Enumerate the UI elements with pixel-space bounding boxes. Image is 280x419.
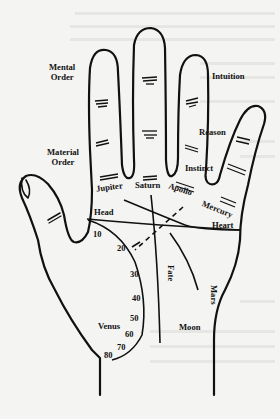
thumb-nail (22, 178, 30, 198)
middle-finger-outline (133, 28, 178, 176)
label-material-order: Material Order (47, 148, 79, 167)
hand-outline-diagram (0, 0, 280, 419)
apollo-line (170, 233, 198, 290)
age-20-tick (132, 242, 140, 247)
age-80: 80 (104, 351, 113, 361)
label-intuition: Intuition (212, 72, 244, 82)
index-finger-outline (89, 50, 134, 178)
age-70: 70 (117, 343, 126, 353)
label-instinct: Instinct (185, 164, 213, 174)
label-saturn: Saturn (135, 181, 160, 191)
label-venus: Venus (98, 322, 120, 332)
age-30: 30 (130, 270, 139, 280)
age-40: 40 (132, 294, 141, 304)
age-50: 50 (130, 314, 139, 324)
fate-line (151, 195, 160, 343)
life-line (88, 220, 144, 360)
age-20: 20 (117, 244, 126, 254)
label-moon: Moon (179, 323, 200, 333)
little-finger-outline (214, 106, 265, 395)
apollo-dashed-line (135, 207, 183, 250)
label-heart-line: Heart (212, 221, 233, 231)
age-10: 10 (93, 230, 102, 240)
hand-left-edge (20, 150, 100, 395)
thumb-crease (48, 213, 60, 220)
age-60: 60 (125, 330, 134, 340)
label-reason: Reason (199, 128, 226, 138)
label-mars: Mars (209, 285, 219, 305)
label-head-line: Head (94, 208, 114, 218)
label-mental-order: Mental Order (49, 63, 75, 82)
label-fate-line: Fate (166, 265, 176, 281)
